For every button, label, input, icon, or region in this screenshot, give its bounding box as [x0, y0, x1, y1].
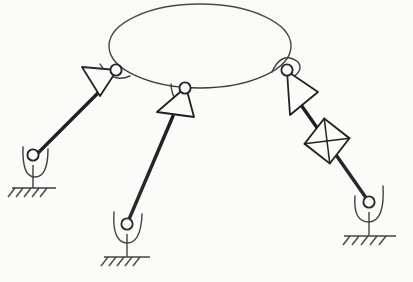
- figure-canvas: [0, 0, 413, 282]
- kinematic-diagram: [0, 0, 413, 282]
- leg-middle-ground-joint: [121, 218, 132, 229]
- paper-background: [0, 0, 413, 282]
- leg-middle-platform-joint: [179, 82, 190, 93]
- leg-right-platform-joint: [281, 64, 292, 75]
- leg-left-ground-joint: [27, 149, 38, 160]
- leg-left-platform-joint: [110, 64, 121, 75]
- leg-right-ground-joint: [363, 196, 374, 207]
